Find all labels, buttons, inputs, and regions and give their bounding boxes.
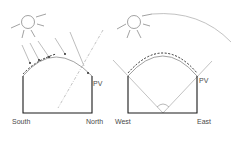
sun-path-arc [152,14,231,42]
transmitted-ray [58,30,103,108]
east-label: East [197,118,211,125]
greenhouse-walls [23,76,92,113]
north-south-diagram [11,14,103,113]
roof-arc [128,56,197,76]
angle-arc [157,104,169,107]
pv-label-right: PV [199,77,208,84]
north-label: North [86,118,103,125]
greenhouse-walls [128,76,197,113]
sun-rays [22,32,84,66]
south-label: South [12,118,30,125]
sun-icon [117,14,152,38]
east-west-diagram [113,14,231,113]
sun-icon [11,14,46,38]
west-label: West [115,118,131,125]
pv-label-left: PV [93,80,102,87]
